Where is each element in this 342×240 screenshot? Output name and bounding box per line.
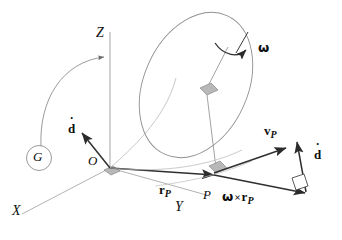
diagram-canvas bbox=[0, 0, 342, 240]
d-dot-tip-label: ˙ d bbox=[314, 148, 321, 161]
velocity-triangle bbox=[214, 142, 308, 193]
d-dot-tip-glyph: ˙ d bbox=[314, 148, 321, 161]
v-p-vector bbox=[214, 148, 286, 173]
axis-x-line bbox=[22, 168, 110, 214]
disk-outline bbox=[118, 0, 275, 176]
omega-cross-r-p-label: ω×rP bbox=[222, 190, 253, 206]
disk-right-angle-marker bbox=[200, 83, 218, 95]
axis-y-label: Y bbox=[175, 200, 183, 214]
r-p-subscript: P bbox=[165, 188, 171, 199]
v-p-label: vP bbox=[264, 124, 277, 140]
omega-cross-symbol: ω bbox=[222, 189, 233, 204]
cross-product-symbol: × bbox=[233, 191, 241, 203]
d-dot-tip-overdot: ˙ bbox=[315, 141, 319, 154]
disk-to-p-segment bbox=[207, 95, 216, 168]
origin-label: O bbox=[88, 154, 97, 167]
disk-radius-link bbox=[200, 47, 228, 173]
d-dot-origin-overdot: ˙ bbox=[69, 115, 73, 128]
d-dot-origin-glyph: ˙ d bbox=[68, 122, 75, 135]
disk-axis-segment bbox=[207, 47, 228, 88]
r-p-label: rP bbox=[159, 183, 171, 199]
omega-label: ω bbox=[258, 41, 269, 54]
axis-z-label: Z bbox=[96, 26, 104, 40]
disk-cone-guides bbox=[110, 78, 252, 186]
coordinate-axes bbox=[22, 32, 210, 214]
omega-arc bbox=[215, 43, 246, 55]
kinematics-diagram: Z X Y O P G ω ˙ d rP vP ω×rP ˙ d bbox=[0, 0, 342, 240]
omega-axis-tick bbox=[236, 32, 248, 53]
axis-x-label: X bbox=[12, 204, 21, 218]
body-g-label: G bbox=[33, 150, 42, 163]
v-p-subscript: P bbox=[271, 129, 277, 140]
rotating-disk bbox=[118, 0, 275, 176]
omega-rotation-arrow bbox=[215, 32, 248, 55]
d-dot-origin-label: ˙ d bbox=[68, 122, 75, 135]
omega-cross-r-subscript: P bbox=[247, 195, 253, 206]
point-p-label: P bbox=[203, 188, 211, 201]
